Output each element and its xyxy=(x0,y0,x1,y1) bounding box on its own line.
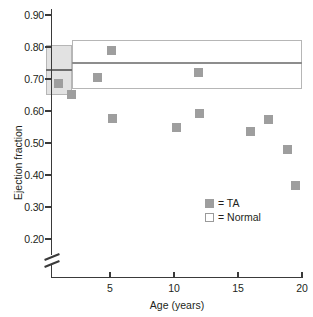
y-tick-label-0.90: 0.90 xyxy=(0,10,44,21)
y-tick-label-0.30: 0.30 xyxy=(0,202,44,213)
data-point-ta-11 xyxy=(291,181,300,190)
y-tick-0.60 xyxy=(45,110,52,111)
x-tick-label-20: 20 xyxy=(287,283,313,294)
data-point-ta-0 xyxy=(54,79,63,88)
data-point-ta-4 xyxy=(108,114,117,123)
y-tick-label-0.80: 0.80 xyxy=(0,42,44,53)
normal-median-line-infant xyxy=(46,69,72,71)
y-tick-0.40 xyxy=(45,174,52,175)
x-tick-label-15: 15 xyxy=(223,283,253,294)
x-tick-15 xyxy=(237,272,238,278)
x-tick-5 xyxy=(109,272,110,278)
x-tick-10 xyxy=(173,272,174,278)
x-axis-line xyxy=(51,277,303,278)
normal-median-line-child xyxy=(72,62,302,64)
y-tick-label-0.20: 0.20 xyxy=(0,234,44,245)
y-tick-0.70 xyxy=(45,78,52,79)
legend-label-ta: = TA xyxy=(218,196,240,210)
x-axis-title: Age (years) xyxy=(51,299,303,311)
y-tick-label-0.70: 0.70 xyxy=(0,74,44,85)
y-tick-0.30 xyxy=(45,206,52,207)
y-tick-0.50 xyxy=(45,142,52,143)
y-axis-title: Ejection fraction xyxy=(12,125,24,200)
data-point-ta-6 xyxy=(194,68,203,77)
data-point-ta-8 xyxy=(246,127,255,136)
data-point-ta-1 xyxy=(67,90,76,99)
filled-square-icon xyxy=(205,199,214,208)
data-point-ta-3 xyxy=(107,46,116,55)
y-tick-label-0.60: 0.60 xyxy=(0,106,44,117)
x-tick-label-5: 5 xyxy=(95,283,125,294)
x-tick-20 xyxy=(301,272,302,278)
data-point-ta-10 xyxy=(283,145,292,154)
legend-item-normal: = Normal xyxy=(205,210,261,224)
legend-item-ta: = TA xyxy=(205,196,261,210)
data-point-ta-2 xyxy=(93,73,102,82)
data-point-ta-5 xyxy=(172,123,181,132)
ejection-fraction-scatter-chart: 0.200.300.400.500.600.700.800.90 5101520… xyxy=(0,0,313,317)
outlined-square-icon xyxy=(205,213,214,222)
data-point-ta-9 xyxy=(264,115,273,124)
y-tick-0.20 xyxy=(45,238,52,239)
y-tick-0.90 xyxy=(45,14,52,15)
chart-legend: = TA = Normal xyxy=(205,196,261,224)
x-tick-label-10: 10 xyxy=(159,283,189,294)
data-point-ta-7 xyxy=(195,109,204,118)
legend-label-normal: = Normal xyxy=(218,210,261,224)
y-tick-0.80 xyxy=(45,46,52,47)
